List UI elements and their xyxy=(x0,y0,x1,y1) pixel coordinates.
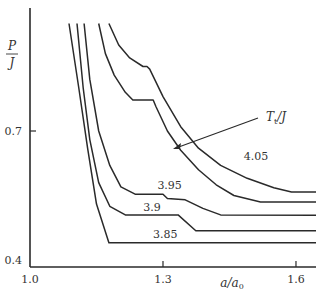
curve-label: 4.05 xyxy=(244,150,269,163)
curve-labels: 3.853.93.954.05 xyxy=(143,150,268,240)
y-tick-label: 0.7 xyxy=(5,125,23,138)
y-axis-label-numerator: P xyxy=(7,39,17,53)
y-tick-label: 0.4 xyxy=(5,254,23,267)
annotation: Tt/J xyxy=(173,110,287,149)
x-tick-label: 1.6 xyxy=(287,273,305,286)
x-tick-label: 1.3 xyxy=(154,273,172,286)
chart: 1.01.31.60.40.7 3.853.93.954.05 P J a/a0… xyxy=(0,0,326,292)
curve-label: 3.9 xyxy=(143,201,161,214)
annotation-arrow-line xyxy=(176,118,258,148)
annotation-label: Tt/J xyxy=(266,110,287,126)
curve-4-05 xyxy=(109,24,316,193)
curve-3-9 xyxy=(77,24,316,231)
curve-label: 3.85 xyxy=(153,228,178,241)
x-tick-label: 1.0 xyxy=(21,273,39,286)
curves xyxy=(69,24,316,243)
curve-label: 3.95 xyxy=(157,179,182,192)
x-axis-label: a/a0 xyxy=(220,276,243,291)
y-axis-label-denominator: J xyxy=(7,56,16,70)
